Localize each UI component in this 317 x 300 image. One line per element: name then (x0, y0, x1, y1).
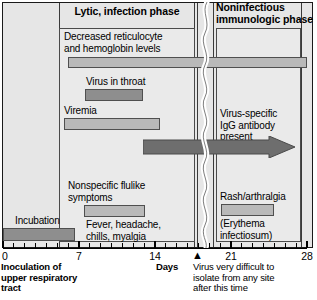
axis-tick-day-20 (220, 243, 221, 248)
axis-tick-day-4 (46, 243, 47, 248)
caption-inoculation-line1: Inoculation of (1, 262, 96, 273)
axis-tick-day-24 (263, 243, 264, 248)
divider-break-right (213, 3, 214, 247)
label-erythema-infectiosum-line2: infectiosum) (220, 230, 305, 242)
label-rash-arthralgia: Rash/arthralgia (220, 191, 305, 203)
bar-virus-in-throat (85, 89, 143, 101)
isolate-marker-arrow-icon: ▲ (192, 250, 203, 261)
axis-tick-label-28: 28 (301, 250, 313, 262)
caption-virus-isolation: Virus very difficult to isolate from any… (193, 262, 317, 294)
label-fever-symptoms-line1: Fever, headache, (86, 219, 196, 231)
parvovirus-timeline-figure: Lytic, infection phase Noninfectious imm… (0, 0, 317, 300)
axis-tick-day-19 (209, 243, 210, 248)
label-fever-symptoms-line2: chills, myalgia (86, 231, 196, 243)
bar-decreased-reticulocyte (68, 57, 307, 68)
phase-title-immunologic: Noninfectious immunologic phase (214, 2, 316, 25)
caption-virus-isolation-line1: Virus very difficult to (193, 262, 317, 273)
arrow-igg-antibody (143, 136, 295, 158)
label-nonspecific-flulike-line2: symptoms (68, 192, 194, 204)
caption-inoculation: Inoculation of upper respiratory tract (1, 262, 96, 294)
axis-tick-day-8 (89, 243, 90, 248)
label-incubation: Incubation (15, 215, 75, 227)
label-virus-in-throat: Virus in throat (86, 76, 196, 88)
label-viremia: Viremia (64, 105, 174, 117)
bar-viremia (64, 118, 160, 130)
axis-tick-day-15 (165, 243, 166, 248)
phase-title-immunologic-line1: Noninfectious (216, 2, 316, 14)
label-decreased-reticulocyte-line2: and hemoglobin levels (64, 43, 196, 55)
axis-tick-day-11 (122, 243, 123, 248)
axis-tick-day-9 (100, 243, 101, 248)
label-erythema-infectiosum: (Erythema infectiosum) (220, 218, 305, 241)
axis-tick-day-17 (187, 243, 188, 248)
axis-tick-day-18 (198, 243, 199, 248)
bar-rash-arthralgia (221, 204, 274, 216)
axis-tick-day-28 (306, 241, 307, 248)
axis-tick-day-12 (133, 243, 134, 248)
label-igg-antibody-line1: Virus-specific (220, 108, 300, 120)
label-erythema-infectiosum-line1: (Erythema (220, 218, 305, 230)
caption-days-label: Days (156, 262, 178, 273)
axis-tick-day-22 (241, 243, 242, 248)
axis-tick-day-2 (24, 243, 25, 248)
axis-tick-day-1 (13, 243, 14, 248)
divider-break-left (197, 3, 198, 247)
axis-tick-day-26 (285, 243, 286, 248)
axis-tick-day-14 (154, 241, 155, 248)
caption-virus-isolation-line3: after this time (193, 283, 317, 294)
axis-tick-day-21 (230, 241, 231, 248)
label-decreased-reticulocyte-line1: Decreased reticulocyte (64, 31, 196, 43)
label-nonspecific-flulike: Nonspecific flulike symptoms (68, 180, 194, 203)
caption-inoculation-line3: tract (1, 283, 96, 294)
phase-title-lytic: Lytic, infection phase (60, 6, 194, 18)
axis-tick-day-16 (176, 243, 177, 248)
axis-tick-day-7 (78, 241, 79, 248)
axis-tick-label-7: 7 (76, 250, 82, 262)
axis-tick-day-3 (35, 243, 36, 248)
axis-tick-day-27 (296, 243, 297, 248)
bar-incubation (3, 228, 75, 241)
axis-tick-day-10 (111, 243, 112, 248)
axis-tick-day-5 (57, 243, 58, 248)
label-fever-symptoms: Fever, headache, chills, myalgia (86, 219, 196, 242)
phase-title-immunologic-line2: immunologic phase (216, 14, 316, 26)
axis-tick-day-6 (68, 243, 69, 248)
axis-tick-day-0 (2, 241, 3, 248)
label-decreased-reticulocyte: Decreased reticulocyte and hemoglobin le… (64, 31, 196, 54)
label-nonspecific-flulike-line1: Nonspecific flulike (68, 180, 194, 192)
axis-tick-day-23 (252, 243, 253, 248)
bar-nonspecific-flulike (84, 205, 145, 217)
label-igg-antibody-line2: IgG antibody (220, 120, 300, 132)
axis-tick-day-25 (274, 243, 275, 248)
divider-right (301, 3, 302, 247)
axis-tick-day-13 (144, 243, 145, 248)
